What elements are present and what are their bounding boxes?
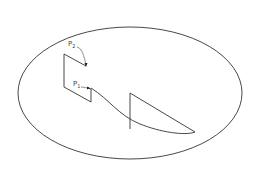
p1-leader-arrow <box>81 87 88 88</box>
descending-curve <box>91 88 195 134</box>
triangle-shape <box>130 93 195 132</box>
bracket-shape <box>64 54 91 102</box>
label-p2: P2 <box>68 40 75 49</box>
p1-arrowhead-icon <box>87 87 90 90</box>
label-p1: P1 <box>73 80 80 89</box>
diagram-canvas: P2 P1 <box>0 0 259 174</box>
